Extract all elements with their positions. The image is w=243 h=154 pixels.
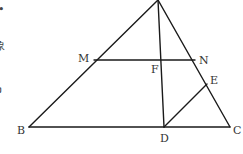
edge-glyph-2: 象: [0, 40, 5, 53]
label-D: D: [160, 132, 169, 145]
segment-AD: [158, 0, 164, 127]
label-C: C: [233, 124, 241, 137]
segment-DE: [164, 84, 207, 127]
label-E: E: [210, 74, 218, 87]
segment-AC: [158, 0, 230, 127]
label-F: F: [151, 63, 159, 76]
geometry-diagram: M N F E B D C • 象 ວ: [0, 0, 243, 154]
label-B: B: [17, 124, 25, 137]
edge-glyph-1: •: [0, 3, 5, 16]
label-M: M: [78, 52, 89, 65]
segment-AB: [29, 0, 158, 127]
label-N: N: [199, 54, 209, 67]
edge-glyph-3: ວ: [0, 83, 2, 96]
clipped-edge-text: • 象 ວ: [0, 3, 5, 96]
point-labels: M N F E B D C: [17, 52, 241, 145]
